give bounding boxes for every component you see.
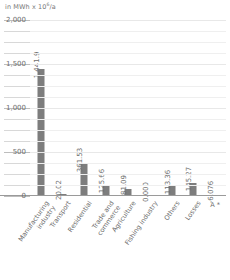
gridline-minor [30, 75, 226, 76]
x-axis-line [0, 195, 226, 196]
bar[interactable] [37, 69, 44, 196]
gridline-minor [30, 42, 226, 43]
y-axis-tick-mark [4, 86, 30, 87]
y-axis-tick-mark [4, 31, 30, 32]
y-axis-tick-mark [4, 75, 30, 76]
y-axis-tick-mark [4, 42, 30, 43]
y-axis-tick-mark [4, 97, 30, 98]
gridline-minor [30, 163, 226, 164]
y-axis-tick-mark [4, 130, 30, 131]
gridline-major [30, 152, 226, 153]
y-axis-tick-label: 1,500 [6, 60, 26, 68]
gridline-major [30, 20, 226, 21]
unit-caption-suffix: /a [50, 3, 56, 11]
bar-value-label: 20.02 [56, 180, 63, 200]
gridline-minor [30, 174, 226, 175]
y-axis-tick-label: 0 [22, 192, 26, 200]
x-axis-category-label: Losses [185, 200, 204, 222]
y-axis-tick-mark [4, 174, 30, 175]
axis-unit-caption: in MWh x 106/a [5, 3, 56, 11]
y-axis-tick-mark [4, 185, 30, 186]
x-axis-category-label: Others [163, 200, 182, 223]
bar-value-label: 145.27 [186, 167, 193, 192]
bar-value-label: 125.66 [99, 169, 106, 194]
y-axis-tick-mark [4, 53, 30, 54]
gridline-minor [30, 97, 226, 98]
y-axis-tick-label: 500 [13, 148, 26, 156]
gridline-major [30, 64, 226, 65]
x-axis-category-label: A * [204, 202, 226, 210]
bar-chart: in MWh x 106/a 1,441.920.02361.53125.668… [0, 0, 230, 280]
y-axis-tick-mark [4, 196, 30, 197]
plot-area: 1,441.920.02361.53125.6681.090.000113.36… [30, 20, 226, 196]
gridline-minor [30, 53, 226, 54]
gridline-minor [30, 86, 226, 87]
gridline-minor [30, 130, 226, 131]
y-axis-tick-mark [4, 119, 30, 120]
gridline-minor [30, 31, 226, 32]
x-axis-category-labels: Manufacturing industryTransportResidenti… [30, 200, 226, 280]
gridline-minor [30, 185, 226, 186]
y-axis-tick-mark [4, 163, 30, 164]
y-axis-tick-mark [4, 141, 30, 142]
unit-caption-prefix: in MWh x 10 [5, 3, 47, 11]
gridline-minor [30, 141, 226, 142]
gridline-minor [30, 119, 226, 120]
y-axis-tick-label: 2,000 [6, 16, 26, 24]
gridline-major [30, 108, 226, 109]
y-axis-tick-label: 1,000 [6, 104, 26, 112]
